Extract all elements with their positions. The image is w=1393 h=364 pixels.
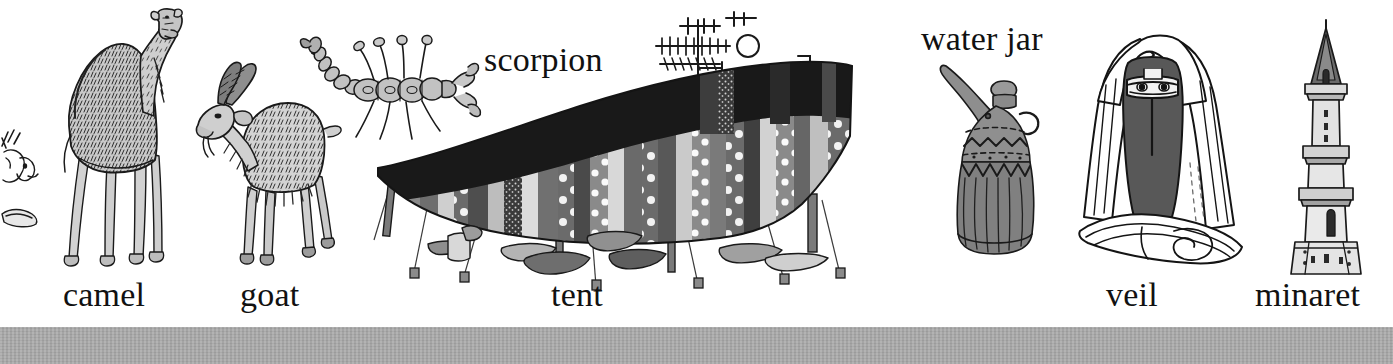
water-jar-illustration xyxy=(938,62,1048,260)
label-goat: goat xyxy=(240,278,299,312)
animal-head-illustration xyxy=(0,128,42,243)
label-scorpion: scorpion xyxy=(484,43,603,77)
label-veil: veil xyxy=(1106,278,1158,312)
tent-illustration xyxy=(370,8,860,288)
illustration-band: camel goat scorpion tent water jar veil … xyxy=(0,0,1393,327)
tent-ground-items xyxy=(428,226,828,274)
veil-figure-illustration xyxy=(1078,25,1248,277)
label-minaret: minaret xyxy=(1255,278,1360,312)
label-tent: tent xyxy=(551,278,603,312)
label-camel: camel xyxy=(63,278,145,312)
label-water-jar: water jar xyxy=(921,22,1043,56)
minaret-illustration xyxy=(1283,18,1369,276)
tent-pegs xyxy=(410,268,845,290)
dictionary-page: camel goat scorpion tent water jar veil … xyxy=(0,0,1393,364)
camel-illustration xyxy=(55,8,183,270)
page-edge-bar xyxy=(0,327,1393,364)
